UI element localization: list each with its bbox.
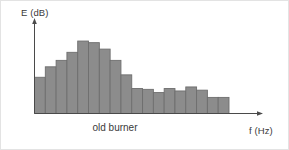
bar [35,77,46,113]
bar [153,93,164,114]
bar [45,67,56,114]
bar [78,41,89,113]
spectrum-figure: E (dB) f (Hz) old burner [0,0,289,150]
bar [132,89,143,114]
bar [89,43,100,114]
bar [164,89,175,114]
bar [197,90,208,113]
up-arrow-icon [32,18,37,24]
bar [143,89,154,113]
bar [207,97,218,113]
bar [186,87,197,114]
bar [99,49,110,113]
bar-series [35,41,230,113]
bar [67,52,78,113]
bar [175,91,186,114]
chart-caption: old burner [1,122,229,133]
bar [56,60,67,113]
bar [121,75,132,114]
right-arrow-icon [257,111,263,116]
y-axis-label: E (dB) [21,7,49,18]
bar [218,97,229,113]
bar [110,60,121,113]
x-axis-label: f (Hz) [249,125,273,136]
